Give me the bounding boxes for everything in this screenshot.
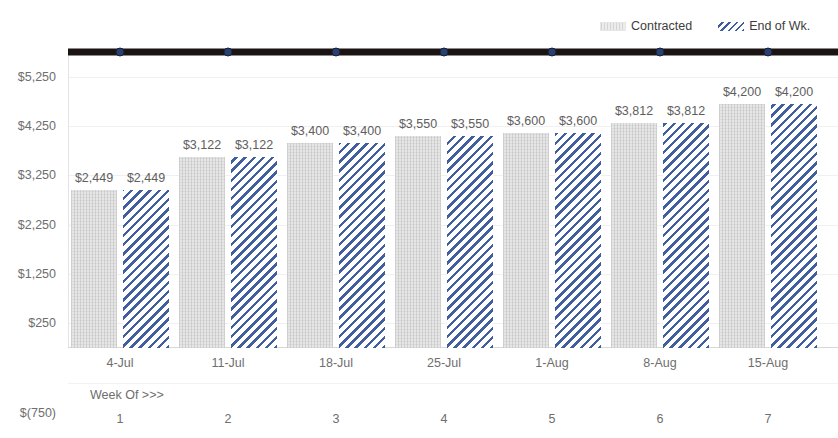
bar-value-label: $3,550 xyxy=(451,117,489,131)
y-tick-label: $1,250 xyxy=(18,267,56,281)
bar-value-label: $3,600 xyxy=(559,114,597,128)
legend-label-end-of-week: End of Wk. xyxy=(749,20,810,33)
week-number-label: 6 xyxy=(657,412,664,426)
target-line-marker[interactable] xyxy=(656,48,665,57)
x-tick-label: 25-Jul xyxy=(427,356,461,370)
bar-group: $3,550$3,550 xyxy=(395,52,493,348)
x-tick-label: 11-Jul xyxy=(211,356,244,370)
end-of-week-swatch-icon xyxy=(718,22,744,31)
bar-group: $3,400$3,400 xyxy=(287,52,385,348)
bar-value-label: $3,550 xyxy=(399,117,437,131)
legend-label-contracted: Contracted xyxy=(631,20,692,33)
target-line-marker[interactable] xyxy=(116,48,125,57)
bar-value-label: $4,200 xyxy=(775,85,813,99)
bar-contracted[interactable]: $3,122 xyxy=(179,157,225,348)
week-number-label: 1 xyxy=(117,412,124,426)
week-number-label: 4 xyxy=(441,412,448,426)
x-axis-labels: 4-Jul11-Jul18-Jul25-Jul1-Aug8-Aug15-Aug xyxy=(68,356,838,378)
week-number-label: 2 xyxy=(225,412,232,426)
week-number-label: 3 xyxy=(333,412,340,426)
bar-end-of-week[interactable]: $4,200 xyxy=(771,104,817,348)
target-line-marker[interactable] xyxy=(440,48,449,57)
y-tick-label: $5,250 xyxy=(18,70,56,84)
bar-end-of-week[interactable]: $2,449 xyxy=(123,190,169,348)
bar-contracted[interactable]: $2,449 xyxy=(71,190,117,348)
chart-legend: Contracted End of Wk. xyxy=(600,16,810,36)
bar-value-label: $3,122 xyxy=(235,138,273,152)
bar-end-of-week[interactable]: $3,600 xyxy=(555,133,601,348)
bar-chart: Contracted End of Wk. $5,250 $4,250 $3,2… xyxy=(0,0,838,438)
week-number-label: 5 xyxy=(549,412,556,426)
bar-contracted[interactable]: $3,600 xyxy=(503,133,549,348)
bar-group: $3,122$3,122 xyxy=(179,52,277,348)
y-tick-label: $250 xyxy=(28,316,56,330)
bar-value-label: $4,200 xyxy=(723,85,761,99)
bar-end-of-week[interactable]: $3,122 xyxy=(231,157,277,348)
legend-item-end-of-week[interactable]: End of Wk. xyxy=(718,20,810,33)
y-tick-label: $3,250 xyxy=(18,168,56,182)
bar-value-label: $2,449 xyxy=(127,171,165,185)
x-tick-label: 15-Aug xyxy=(748,356,788,370)
bar-end-of-week[interactable]: $3,400 xyxy=(339,143,385,348)
bar-value-label: $3,400 xyxy=(343,124,381,138)
bar-value-label: $3,600 xyxy=(507,114,545,128)
bar-group: $4,200$4,200 xyxy=(719,52,817,348)
bar-contracted[interactable]: $3,812 xyxy=(611,123,657,348)
bar-value-label: $3,122 xyxy=(183,138,221,152)
target-line-marker[interactable] xyxy=(224,48,233,57)
bar-value-label: $2,449 xyxy=(75,171,113,185)
y-tick-label: $2,250 xyxy=(18,218,56,232)
week-number-label: 7 xyxy=(765,412,772,426)
bar-end-of-week[interactable]: $3,812 xyxy=(663,123,709,348)
target-line[interactable] xyxy=(68,49,838,56)
bar-group: $3,600$3,600 xyxy=(503,52,601,348)
target-line-marker[interactable] xyxy=(332,48,341,57)
bar-group: $3,812$3,812 xyxy=(611,52,709,348)
y-axis: $5,250 $4,250 $3,250 $2,250 $1,250 $250 … xyxy=(0,52,62,348)
target-line-marker[interactable] xyxy=(764,48,773,57)
bar-value-label: $3,812 xyxy=(667,104,705,118)
bar-contracted[interactable]: $3,400 xyxy=(287,143,333,348)
x-tick-label: 1-Aug xyxy=(535,356,568,370)
bar-contracted[interactable]: $3,550 xyxy=(395,136,441,348)
divider xyxy=(68,383,838,384)
week-number-labels: 1234567 xyxy=(68,412,838,434)
y-axis-line xyxy=(68,52,69,348)
x-tick-label: 18-Jul xyxy=(319,356,353,370)
x-tick-label: 8-Aug xyxy=(643,356,676,370)
bar-value-label: $3,400 xyxy=(291,124,329,138)
x-tick-label: 4-Jul xyxy=(106,356,133,370)
y-tick-label: $(750) xyxy=(20,406,56,420)
legend-item-contracted[interactable]: Contracted xyxy=(600,20,692,33)
plot-area: $2,449$2,449$3,122$3,122$3,400$3,400$3,5… xyxy=(68,52,838,348)
y-tick-label: $4,250 xyxy=(18,119,56,133)
bar-group: $2,449$2,449 xyxy=(71,52,169,348)
target-line-marker[interactable] xyxy=(548,48,557,57)
contracted-swatch-icon xyxy=(600,22,626,31)
bar-value-label: $3,812 xyxy=(615,104,653,118)
bar-contracted[interactable]: $4,200 xyxy=(719,104,765,348)
week-of-label: Week Of >>> xyxy=(90,388,164,402)
bar-end-of-week[interactable]: $3,550 xyxy=(447,136,493,348)
